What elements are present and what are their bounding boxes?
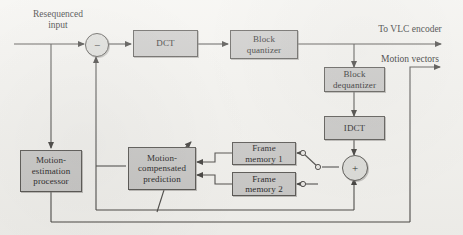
block-quantizer[interactable]: Block quantizer [230, 30, 298, 59]
subtractor-node[interactable]: − [85, 33, 109, 57]
block-motion-compensated-prediction[interactable]: Motion- compensated prediction [128, 147, 196, 190]
label-motion-vectors: Motion vectors [358, 54, 462, 65]
block-motion-estimation-processor[interactable]: Motion- estimation processor [20, 150, 82, 192]
wire-motion-vectors-out [410, 67, 440, 222]
wire-fm1-to-mcp [197, 153, 232, 162]
block-frame-memory-2[interactable]: Frame memory 2 [232, 172, 296, 196]
block-idct[interactable]: IDCT [324, 116, 385, 140]
block-frame-memory-1[interactable]: Frame memory 1 [232, 142, 296, 165]
video-encoder-diagram: Resequenced input To VLC encoder Motion … [0, 0, 463, 235]
label-resequenced-input: Resequenced input [10, 9, 106, 31]
label-to-vlc-encoder: To VLC encoder [360, 24, 460, 35]
wire-mcp-to-bus [157, 190, 164, 212]
adder-node[interactable]: + [342, 155, 368, 181]
frame-memory-selector-switch[interactable] [292, 144, 328, 192]
block-dequantizer[interactable]: Block dequantizer [324, 67, 385, 92]
wire-fm2-to-mcp [197, 175, 232, 184]
block-dct[interactable]: DCT [133, 30, 198, 57]
